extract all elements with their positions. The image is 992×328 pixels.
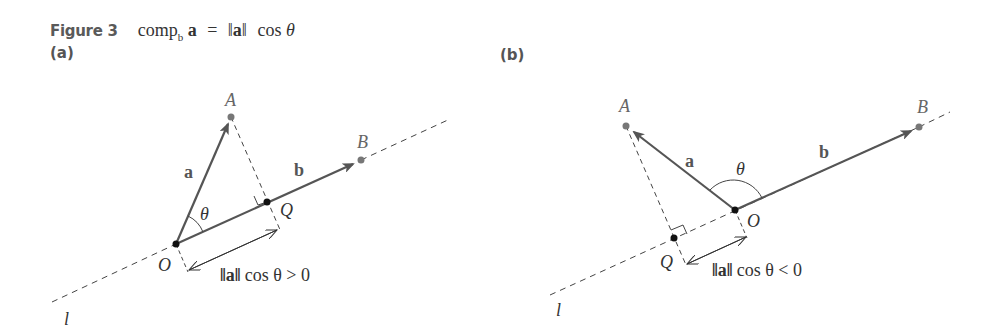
label-A: A [224, 90, 237, 110]
right-angle-mark [671, 225, 687, 234]
label-line-l: l [64, 309, 69, 328]
measure-label: ‖a‖cos θ > 0 [220, 265, 310, 285]
measure-norm: ‖a‖ [220, 265, 241, 285]
diagram-canvas: A B O Q a b θ l ‖a‖cos θ > 0 A [0, 0, 992, 328]
label-O: O [747, 211, 760, 231]
label-A: A [618, 96, 631, 116]
origin-offset-dashed [735, 210, 747, 238]
vector-a [634, 132, 735, 210]
label-Q: Q [660, 252, 673, 272]
point-O [732, 207, 739, 214]
point-Q [671, 235, 678, 242]
label-line-l: l [556, 300, 561, 320]
point-B [358, 157, 365, 164]
label-Q: Q [280, 200, 293, 220]
panel-a-diagram: A B O Q a b θ l ‖a‖cos θ > 0 [52, 90, 450, 328]
label-B: B [357, 132, 368, 152]
panel-b-diagram: A B O Q a b θ l ‖a‖cos θ < 0 [550, 96, 950, 320]
line-l-dashed-ext [361, 119, 450, 160]
point-O [173, 241, 180, 248]
label-vec-a: a [184, 162, 193, 182]
label-O: O [158, 255, 171, 275]
point-B [916, 124, 923, 131]
origin-offset-dashed [176, 244, 188, 272]
vector-a [176, 124, 228, 244]
label-vec-a: a [685, 151, 694, 171]
measure-rest: cos θ > 0 [245, 265, 310, 285]
theta-arc [710, 180, 762, 198]
label-B: B [917, 97, 928, 117]
measure-norm: ‖a‖ [712, 260, 733, 280]
point-A [228, 114, 235, 121]
measure-rest: cos θ < 0 [737, 260, 802, 280]
point-Q [264, 199, 271, 206]
label-vec-b: b [294, 160, 304, 180]
measure-arrow-back [189, 230, 277, 270]
measure-label: ‖a‖cos θ < 0 [712, 260, 802, 280]
label-vec-b: b [819, 142, 829, 162]
label-theta: θ [200, 204, 209, 224]
point-A [623, 123, 630, 130]
perpendicular-dashed [626, 126, 686, 265]
label-theta: θ [736, 159, 745, 179]
